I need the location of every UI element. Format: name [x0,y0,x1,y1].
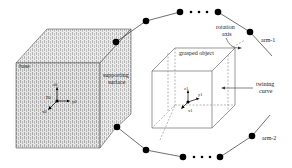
twining-curve-label-2: curve [259,88,273,94]
supporting-surface-label-2: surface [108,79,126,85]
grasped-object-label: grasped object [179,50,214,56]
base-label: base [19,63,30,69]
arm-2-joint [114,124,121,131]
twining-curve-pointer [221,87,253,90]
x0-label: x0 [42,109,47,114]
y0-label: y0 [72,99,77,104]
arm-1-chain [113,9,272,56]
z0-label: z0 [53,82,58,87]
base-block [16,29,131,148]
arm-1-joint [215,9,222,16]
arm-1-joint [247,29,254,36]
arm-2-joint [143,147,150,154]
object-frame-axes [181,90,200,110]
arm-1-joint [177,9,184,16]
arm-2-joint [249,133,256,140]
rotation-axis-label-2: axis [222,31,232,37]
arm-2-chain [114,115,270,160]
sigma0-label: Σ0 [46,95,52,100]
arm-1-joint [113,39,120,46]
z1-label: z1 [184,86,188,91]
robot-arm-diagram: z0 y0 x0 Σ0 z1 y1 x1 base supporting sur… [0,0,292,168]
arm-2-label: arm-2 [262,135,276,141]
arm-2-joint [217,154,224,161]
arm-1-joint [143,18,150,25]
arm-1-label: arm-1 [261,37,275,43]
arm-2-joint [180,154,187,161]
y1-label: y1 [198,92,203,97]
supporting-surface-label-1: supporting [103,72,129,78]
x1-label: x1 [188,108,193,113]
twining-curve-label-1: twining [256,81,274,87]
rotation-axis-label-1: rotation [216,24,235,30]
